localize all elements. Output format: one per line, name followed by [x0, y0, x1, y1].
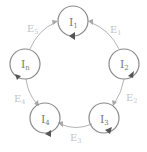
node-i1[interactable]: I1	[58, 6, 88, 40]
node-in[interactable]: In	[10, 49, 40, 80]
state-cycle-diagram: E5 E1 E2 E3 E4	[0, 0, 147, 152]
node-i4[interactable]: I4	[30, 103, 60, 137]
edge-e3: E3	[58, 121, 92, 145]
node-label-i2: I2	[120, 58, 129, 72]
edge-e2: E2	[112, 79, 137, 106]
self-loop-arrow-icon	[15, 74, 21, 80]
edge-label-e5: E5	[27, 23, 38, 36]
arrowhead-icon	[88, 19, 93, 25]
self-loop-arrow-icon	[128, 71, 134, 78]
node-i2[interactable]: I2	[109, 49, 139, 79]
arrowhead-icon	[52, 20, 58, 25]
node-label-in: In	[21, 58, 30, 72]
edge-label-e4: E4	[14, 93, 25, 106]
self-loop-arrow-icon	[69, 32, 75, 40]
node-label-i3: I3	[100, 113, 109, 127]
edge-label-e1: E1	[110, 24, 121, 37]
edge-label-e2: E2	[126, 92, 137, 105]
edge-label-e3: E3	[70, 132, 81, 145]
edge-e4: E4	[14, 79, 39, 106]
node-label-i4: I4	[41, 113, 50, 127]
node-i3[interactable]: I3	[89, 103, 119, 134]
node-label-i1: I1	[69, 16, 78, 30]
self-loop-arrow-icon	[45, 130, 51, 137]
edge-e5: E5	[27, 20, 58, 49]
edge-e1: E1	[88, 19, 121, 49]
